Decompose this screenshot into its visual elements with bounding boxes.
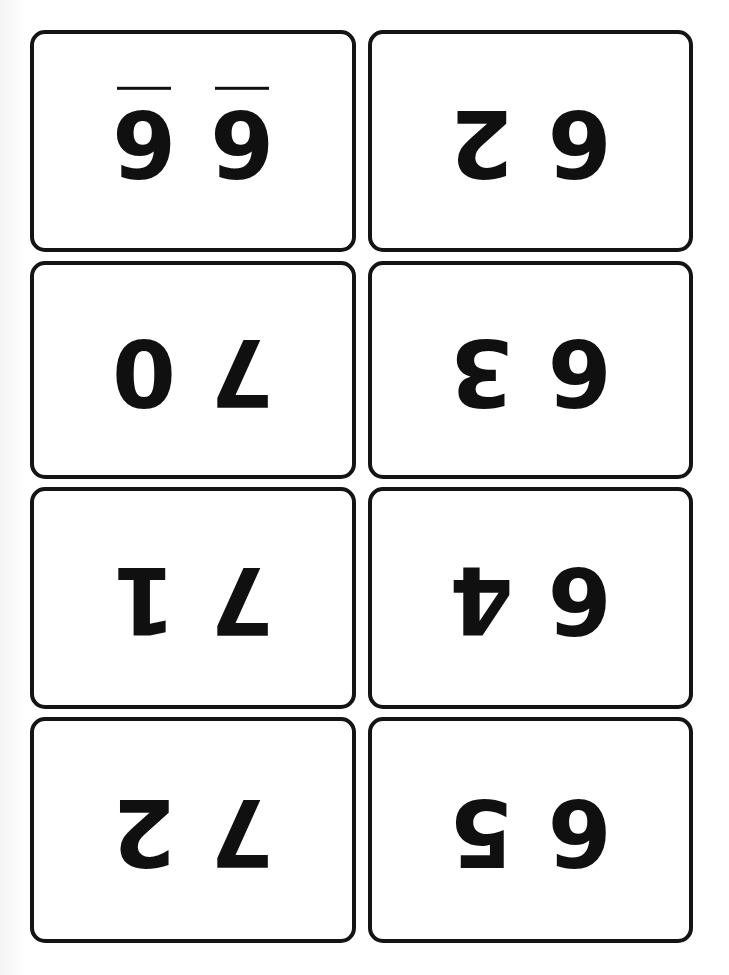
digit-underline-mark: [215, 87, 269, 90]
digit-slot-first: 6: [548, 329, 612, 412]
digit-slot-first: 7: [210, 557, 274, 640]
digit-slot-first: 6: [210, 100, 274, 183]
card-digit-row: 7 1: [34, 557, 352, 640]
digit-glyph: 6: [548, 557, 612, 640]
digit-glyph: 5: [449, 789, 513, 872]
digit-slot-second: 6: [112, 100, 176, 183]
card-digit-row: 6 2: [372, 100, 689, 183]
flashcard-row-4-left[interactable]: 7 2: [30, 717, 356, 943]
flashcard-row-3-right[interactable]: 6 4: [368, 487, 693, 709]
digit-slot-second: 2: [112, 789, 176, 872]
digit-underline-mark: [117, 87, 171, 90]
digit-glyph: 2: [449, 100, 513, 183]
digit-glyph: 7: [210, 789, 274, 872]
digit-glyph: 7: [210, 557, 274, 640]
flashcard-row-3-left[interactable]: 7 1: [30, 487, 356, 709]
flashcard-row-1-left[interactable]: 6 6: [30, 30, 356, 252]
digit-slot-first: 6: [548, 100, 612, 183]
digit-slot-second: 0: [112, 329, 176, 412]
digit-glyph: 2: [112, 789, 176, 872]
digit-glyph: 3: [449, 329, 513, 412]
digit-slot-second: 3: [449, 329, 513, 412]
card-digit-row: 6 6: [34, 100, 352, 183]
digit-slot-second: 2: [449, 100, 513, 183]
digit-glyph: 4: [449, 557, 513, 640]
card-digit-row: 6 3: [372, 329, 689, 412]
flashcard-grid: 6 6 6 2 7: [0, 0, 729, 975]
digit-slot-second: 5: [449, 789, 513, 872]
digit-glyph: 6: [548, 100, 612, 183]
digit-glyph: 7: [210, 329, 274, 412]
digit-slot-second: 4: [449, 557, 513, 640]
card-digit-row: 7 0: [34, 329, 352, 412]
digit-slot-first: 6: [548, 789, 612, 872]
digit-glyph: 6: [548, 789, 612, 872]
digit-slot-first: 7: [210, 329, 274, 412]
digit-slot-first: 7: [210, 789, 274, 872]
flashcard-row-4-right[interactable]: 6 5: [368, 717, 693, 943]
digit-glyph: 6: [112, 100, 176, 183]
digit-slot-second: 1: [112, 557, 176, 640]
digit-glyph: 6: [210, 100, 274, 183]
digit-glyph: 0: [112, 329, 176, 412]
digit-glyph: 6: [548, 329, 612, 412]
flashcard-row-2-left[interactable]: 7 0: [30, 261, 356, 479]
card-digit-row: 6 4: [372, 557, 689, 640]
digit-slot-first: 6: [548, 557, 612, 640]
card-digit-row: 7 2: [34, 789, 352, 872]
flashcard-row-1-right[interactable]: 6 2: [368, 30, 693, 252]
digit-glyph: 1: [112, 557, 176, 640]
flashcard-row-2-right[interactable]: 6 3: [368, 261, 693, 479]
card-digit-row: 6 5: [372, 789, 689, 872]
